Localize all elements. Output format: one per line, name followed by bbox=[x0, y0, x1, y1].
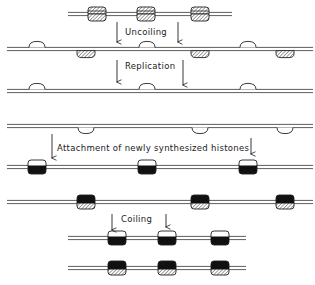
histone-top-half-icon bbox=[137, 7, 155, 14]
row-daughter-2-with-new-histones bbox=[7, 200, 313, 203]
row-daughter-strand-1 bbox=[7, 89, 313, 92]
open-histone-half-icon bbox=[139, 83, 155, 89]
histone-top-half-icon bbox=[191, 7, 209, 14]
nucleosomes-coiled-daughter-1 bbox=[108, 231, 229, 245]
diagram-canvas: Uncoiling Replication Attachment of newl… bbox=[0, 0, 315, 285]
open-histone-half-icon bbox=[240, 83, 256, 89]
open-histone-half-icon bbox=[139, 41, 155, 47]
open-histone-half-icon bbox=[240, 41, 256, 47]
new-histone-band bbox=[138, 166, 156, 169]
new-histone-band bbox=[276, 201, 294, 204]
open-histone-half-icon bbox=[29, 41, 45, 47]
new-histone-band bbox=[108, 267, 126, 270]
nucleosomes-parental-chromatin bbox=[88, 7, 209, 21]
attachment-label: Attachment of newly synthesized histones bbox=[57, 143, 249, 153]
histone-bottom-half-icon bbox=[137, 14, 155, 21]
nucleosomes-daughter-strand-1 bbox=[29, 83, 256, 89]
new-histone-band bbox=[28, 166, 46, 169]
parental-histone-half-icon bbox=[191, 51, 209, 58]
new-histone-band bbox=[211, 237, 229, 240]
open-histone-half-icon bbox=[277, 128, 293, 134]
row-daughter-1-with-new-histones bbox=[7, 165, 313, 168]
open-histone-half-icon bbox=[78, 128, 94, 134]
new-histone-band bbox=[158, 237, 176, 240]
row-daughter-strand-2 bbox=[7, 124, 313, 127]
new-histone-band bbox=[108, 237, 126, 240]
open-histone-half-icon bbox=[29, 83, 45, 89]
uncoiling-label: Uncoiling bbox=[125, 27, 167, 37]
nucleosomes-coiled-daughter-2 bbox=[108, 261, 229, 275]
new-histone-band bbox=[191, 201, 209, 204]
nucleosomes-daughter-2-with-new-histones bbox=[77, 195, 294, 209]
new-histone-band bbox=[239, 166, 257, 169]
open-histone-half-icon bbox=[192, 128, 208, 134]
replication-label: Replication bbox=[125, 61, 175, 71]
row-uncoiled-dna bbox=[7, 47, 313, 50]
nucleosomes-daughter-strand-2 bbox=[78, 128, 293, 134]
histone-top-half-icon bbox=[88, 7, 106, 14]
nucleosomes-uncoiled-dna bbox=[29, 41, 294, 57]
histone-bottom-half-icon bbox=[191, 14, 209, 21]
parental-histone-half-icon bbox=[77, 51, 95, 58]
new-histone-band bbox=[77, 201, 95, 204]
new-histone-band bbox=[158, 267, 176, 270]
nucleosomes-daughter-1-with-new-histones bbox=[28, 160, 257, 174]
histone-bottom-half-icon bbox=[88, 14, 106, 21]
parental-histone-half-icon bbox=[276, 51, 294, 58]
new-histone-band bbox=[211, 267, 229, 270]
coiling-label: Coiling bbox=[121, 214, 152, 224]
